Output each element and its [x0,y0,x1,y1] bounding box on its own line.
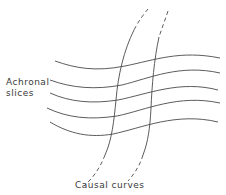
achronal-slice [50,119,218,136]
causal-curve-dashed-top [159,11,168,37]
achronal-slice [50,70,220,88]
achronal-slices-label: Achronal slices [6,77,49,99]
causal-curve-solid [105,30,134,155]
causal-curve-dashed-top [134,9,148,30]
causal-curve-solid [143,37,159,155]
causal-curve-dashed-bottom [128,155,143,181]
achronal-slice [50,87,218,102]
achronal-label-line2: slices [6,88,49,99]
causal-curves-label: Causal curves [75,180,144,191]
achronal-slice [47,100,220,118]
causal-curve-1 [84,9,148,186]
achronal-slices-group [47,55,220,135]
achronal-slice [55,55,220,69]
achronal-label-line1: Achronal [6,77,49,88]
